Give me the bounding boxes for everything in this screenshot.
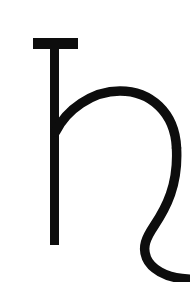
image-canvas <box>0 0 190 282</box>
saturn-symbol-glyph <box>0 0 190 282</box>
vertical-stem <box>50 38 59 245</box>
background-plate <box>0 0 190 282</box>
